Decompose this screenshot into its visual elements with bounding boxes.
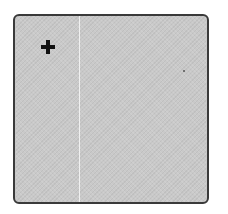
plus-icon (40, 39, 56, 55)
vertical-divider (79, 16, 80, 202)
canvas-panel[interactable] (13, 14, 209, 204)
speck (183, 70, 185, 72)
add-button[interactable] (40, 39, 56, 55)
